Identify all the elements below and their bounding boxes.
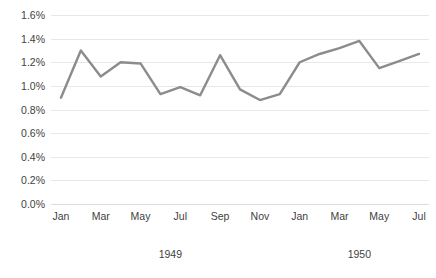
x-axis-group-label: 1950 xyxy=(348,248,371,260)
gridline xyxy=(51,204,429,205)
y-axis-tick-label: 0.6% xyxy=(0,128,45,138)
y-axis-tick-label: 0.2% xyxy=(0,175,45,185)
x-axis-group-label: 1949 xyxy=(159,248,182,260)
y-axis-tick-label: 1.2% xyxy=(0,57,45,67)
y-axis-tick-label: 0.0% xyxy=(0,199,45,209)
x-axis-tick-label: Mar xyxy=(92,210,110,222)
x-axis: JanMarMayJulSepNovJanMarMayJul xyxy=(51,210,429,226)
y-axis-tick-label: 0.4% xyxy=(0,152,45,162)
x-axis-tick-label: Nov xyxy=(251,210,270,222)
x-axis-tick-label: Jul xyxy=(174,210,187,222)
series-line-layer xyxy=(51,15,429,204)
y-axis-tick-label: 0.8% xyxy=(0,105,45,115)
x-axis-year-groups: 19491950 xyxy=(51,248,429,264)
x-axis-tick-label: Sep xyxy=(211,210,230,222)
x-axis-tick-label: May xyxy=(131,210,151,222)
plot-area xyxy=(51,15,429,204)
x-axis-tick-label: Mar xyxy=(330,210,348,222)
y-axis-tick-label: 1.6% xyxy=(0,10,45,20)
y-axis: 1.6%1.4%1.2%1.0%0.8%0.6%0.4%0.2%0.0% xyxy=(0,0,45,220)
x-axis-tick-label: Jan xyxy=(52,210,69,222)
x-axis-tick-label: May xyxy=(369,210,389,222)
y-axis-tick-label: 1.0% xyxy=(0,81,45,91)
line-chart: 1.6%1.4%1.2%1.0%0.8%0.6%0.4%0.2%0.0% Jan… xyxy=(0,0,436,278)
y-axis-tick-label: 1.4% xyxy=(0,34,45,44)
x-axis-tick-label: Jan xyxy=(291,210,308,222)
x-axis-tick-label: Jul xyxy=(412,210,425,222)
series-line-1 xyxy=(61,41,419,100)
